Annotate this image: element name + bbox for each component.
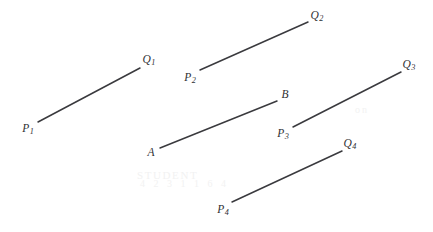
segment-a-b-start-label: A — [147, 147, 154, 159]
segment-p3-q3 — [293, 72, 401, 127]
segment-p3-q3-start-label: P3 — [277, 128, 289, 141]
segment-p2-q2-start-label: P2 — [184, 72, 196, 85]
segment-p4-q4 — [232, 151, 342, 202]
figure-container: STUDENT 4 2 3 1 1 6 4 on P1Q1P2Q2ABP3Q3P… — [0, 0, 433, 232]
segment-p4-q4-end-label: Q4 — [344, 138, 357, 151]
segment-p3-q3-end-label: Q3 — [403, 59, 416, 72]
segment-p1-q1 — [38, 68, 140, 122]
segment-p1-q1-start-label: P1 — [22, 123, 34, 136]
segment-p2-q2-end-label: Q2 — [311, 10, 324, 23]
segment-p4-q4-start-label: P4 — [217, 204, 229, 217]
line-segments-canvas — [0, 0, 433, 232]
segments-group — [38, 22, 401, 202]
segment-a-b-end-label: B — [281, 89, 288, 101]
segment-a-b — [160, 101, 277, 148]
segment-p2-q2 — [200, 22, 308, 70]
segment-p1-q1-end-label: Q1 — [143, 54, 156, 67]
